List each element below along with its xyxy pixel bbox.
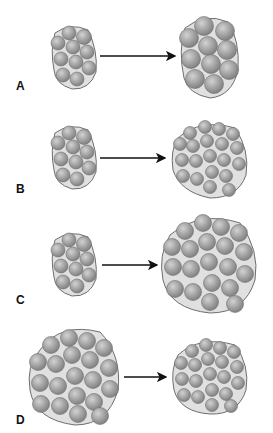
diagram-canvas: A B (0, 0, 273, 433)
panel-b: B (16, 121, 247, 199)
label-b: B (16, 182, 25, 196)
label-c: C (16, 293, 25, 307)
panel-d: D (16, 329, 247, 427)
panel-c: C (16, 215, 256, 314)
label-d: D (16, 413, 25, 427)
label-a: A (16, 79, 25, 93)
panel-a: A (16, 17, 239, 99)
